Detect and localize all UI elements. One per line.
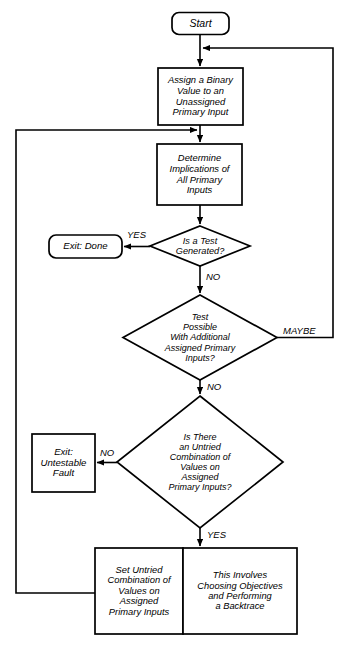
node-backtrace-note-shape	[183, 548, 297, 634]
node-test-possible-shape	[123, 295, 277, 380]
node-determine-implications-shape	[157, 144, 242, 205]
node-untried-combination-shape	[117, 396, 283, 528]
node-set-untried-shape	[95, 548, 183, 634]
flowchart-graphics: Exit: Done --> Test Possible --> Untried…	[0, 0, 338, 645]
node-assign-binary-shape	[158, 68, 243, 125]
node-is-test-generated-shape	[150, 226, 250, 266]
node-exit-untestable-shape	[32, 434, 95, 492]
flowchart-canvas: Exit: Done --> Test Possible --> Untried…	[0, 0, 338, 645]
node-start-shape	[172, 13, 229, 35]
node-exit-done-shape	[49, 235, 122, 258]
